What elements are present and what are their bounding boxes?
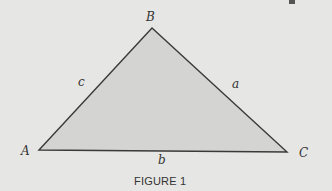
triangle-diagram — [0, 0, 332, 191]
vertex-label-c: C — [299, 147, 308, 159]
side-label-b: b — [158, 154, 166, 166]
triangle-abc — [39, 28, 287, 152]
side-label-a: a — [232, 78, 239, 90]
vertex-label-b: B — [146, 11, 155, 23]
side-label-c: c — [78, 76, 85, 88]
figure-caption: FIGURE 1 — [134, 176, 186, 187]
vertex-label-a: A — [21, 145, 30, 157]
